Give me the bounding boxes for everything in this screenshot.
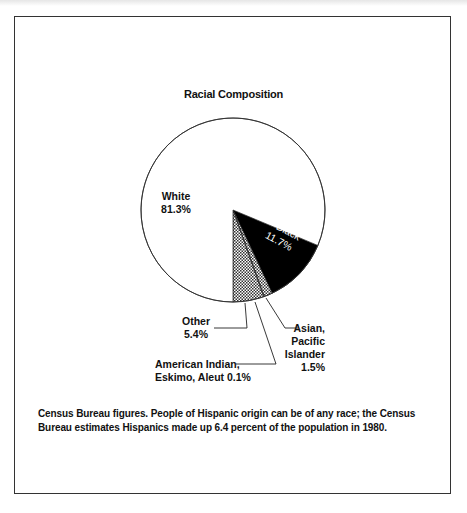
footnote: Census Bureau figures. People of Hispani…	[38, 407, 448, 435]
label-white-name: White	[162, 190, 191, 202]
label-other-pct: 5.4%	[184, 328, 209, 340]
label-asian-pct: 1.5%	[301, 361, 326, 373]
label-other-name: Other	[182, 315, 210, 327]
pie-chart: White 81.3% Black 11.7% Other 5.4% Asian…	[0, 0, 467, 513]
leader-american-indian	[236, 302, 276, 364]
label-asian-line2: Pacific	[291, 335, 325, 347]
label-american-indian-line1: American Indian,	[155, 358, 240, 370]
label-asian-line1: Asian,	[293, 322, 325, 334]
label-white-pct: 81.3%	[161, 203, 191, 215]
label-asian-line3: Islander	[285, 348, 325, 360]
leader-other	[214, 303, 247, 328]
label-american-indian-line2: Eskimo, Aleut 0.1%	[155, 371, 252, 383]
